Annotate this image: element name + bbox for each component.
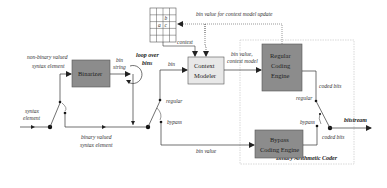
switch-2-arm bbox=[148, 101, 160, 127]
loop-label-2: bins bbox=[142, 60, 153, 66]
context-label: context bbox=[177, 39, 193, 45]
context-grid: b a c bbox=[150, 8, 176, 42]
bin-value-context-label-2: context model bbox=[227, 58, 258, 64]
bin-value-update-label: bin value for context model update bbox=[196, 11, 273, 17]
regular-right-label: regular bbox=[296, 95, 313, 101]
bypass-coding-engine-block: Bypass Coding Engine bbox=[255, 130, 303, 158]
bypass-left-label: bypass bbox=[167, 119, 182, 125]
non-binary-label: non-binary valued bbox=[27, 54, 68, 60]
context-line-2 bbox=[205, 24, 206, 56]
binarizer-block: Binarizer bbox=[72, 60, 110, 87]
switch-1-arm bbox=[50, 103, 60, 127]
svg-text:Regular: Regular bbox=[270, 52, 291, 59]
coded-bits-bottom-label: coded bits bbox=[322, 134, 344, 140]
bin-line bbox=[160, 70, 187, 100]
bypass-right-label: bypass bbox=[300, 119, 315, 125]
svg-text:b: b bbox=[165, 15, 168, 21]
binary-valued-line bbox=[65, 113, 147, 127]
bin-string-label-2: string bbox=[113, 64, 126, 70]
cabac-diagram: Binary Arithmetic Coder b a c bin value … bbox=[0, 0, 387, 188]
coded-bits-top-label: coded bits bbox=[319, 83, 341, 89]
binary-valued-label: binary valued bbox=[81, 134, 112, 140]
svg-text:Modeler: Modeler bbox=[194, 72, 217, 79]
svg-text:Binarizer: Binarizer bbox=[78, 70, 103, 77]
switch-3-arm bbox=[316, 101, 330, 128]
regular-coding-engine-block: Regular Coding Engine bbox=[262, 44, 302, 91]
syntax-element-label: syntax bbox=[25, 108, 40, 114]
non-binary-line bbox=[60, 74, 71, 102]
coded-bits-bottom-line bbox=[303, 126, 317, 145]
bin-value-context-label: bin value, bbox=[231, 51, 253, 57]
regular-left-label: regular bbox=[166, 98, 183, 104]
binary-valued-label-2: syntax element bbox=[80, 142, 113, 148]
svg-text:a: a bbox=[158, 22, 161, 28]
non-binary-label-2: syntax element bbox=[32, 63, 65, 69]
svg-text:Context: Context bbox=[194, 62, 215, 69]
svg-text:Bypass: Bypass bbox=[270, 136, 289, 143]
svg-text:Coding: Coding bbox=[271, 62, 291, 69]
syntax-element-label-2: element bbox=[23, 115, 41, 121]
bin-label: bin bbox=[168, 61, 175, 67]
bin-value-label: bin value bbox=[196, 148, 217, 154]
context-modeler-block: Context Modeler bbox=[188, 57, 224, 84]
svg-text:Coding Engine: Coding Engine bbox=[260, 146, 299, 153]
loop-label: loop over bbox=[136, 52, 159, 58]
bitstream-label: bitstream bbox=[344, 117, 367, 123]
svg-text:Engine: Engine bbox=[271, 72, 290, 79]
bin-string-label: bin bbox=[116, 57, 123, 63]
svg-text:c: c bbox=[165, 22, 168, 28]
